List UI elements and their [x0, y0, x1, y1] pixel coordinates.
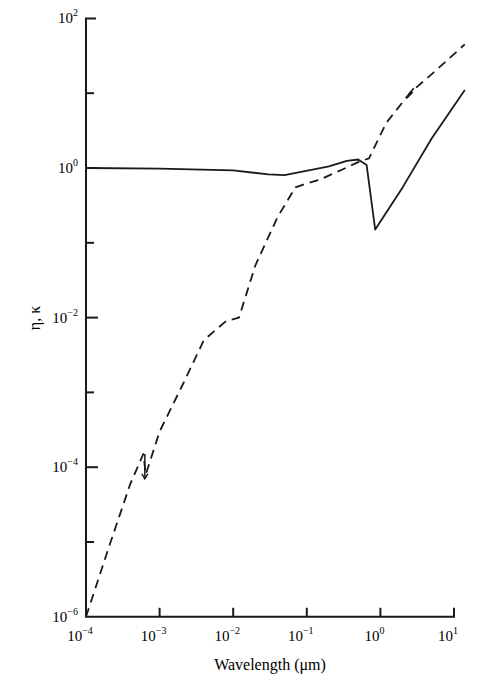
y-tick-label: 10−6: [52, 606, 78, 625]
x-tick-label: 101: [438, 625, 458, 644]
chart-plot: 10−410−310−210−110010110210010−210−410−6…: [0, 0, 488, 697]
x-axis-title: Wavelength (μm): [214, 656, 326, 674]
y-axis-title: η, κ: [26, 306, 44, 330]
y-tick-label: 10−2: [52, 307, 78, 326]
x-tick-label: 10−2: [214, 625, 240, 644]
break-marker-icon: [407, 88, 414, 98]
x-tick-label: 100: [364, 625, 384, 644]
x-tick-label: 10−3: [141, 625, 167, 644]
y-tick-label: 102: [58, 7, 78, 26]
eta-curve: [86, 90, 465, 230]
y-tick-label: 10−4: [52, 456, 78, 475]
kappa-curve: [86, 44, 465, 617]
data-series: [86, 44, 465, 617]
y-tick-label: 100: [58, 157, 78, 176]
tick-labels: 10−410−310−210−110010110210010−210−410−6: [52, 7, 458, 643]
x-tick-label: 10−1: [288, 625, 314, 644]
x-tick-label: 10−4: [67, 625, 93, 644]
